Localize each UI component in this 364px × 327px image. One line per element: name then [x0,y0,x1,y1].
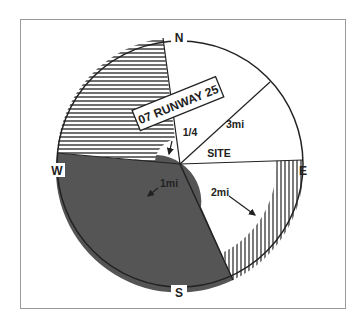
compass-north: N [175,31,184,45]
label-three-mile: 3mi [226,118,244,130]
label-quarter-mile: 1/4 [183,126,198,138]
compass-east: E [299,164,307,178]
label-one-mile: 1mi [160,177,178,189]
site-sector-diagram: N W E S 07 RUNWAY 25 1/4 3mi SITE 1mi 2m… [0,0,364,327]
compass-west: W [51,164,63,178]
label-site: SITE [207,147,230,159]
label-two-mile: 2mi [211,186,229,198]
compass-south: S [175,286,183,300]
